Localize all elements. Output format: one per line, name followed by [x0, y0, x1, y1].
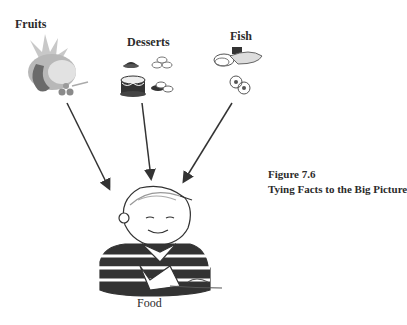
arrow-fish-to-food — [184, 103, 232, 181]
boy-eating-icon — [98, 186, 222, 296]
desserts-icon — [120, 57, 173, 97]
target-label-food: Food — [137, 296, 162, 311]
fruits-icon — [28, 34, 88, 96]
fish-icon — [214, 47, 262, 94]
source-label-fish: Fish — [230, 29, 252, 44]
figure-title: Tying Facts to the Big Picture — [268, 182, 407, 197]
arrow-fruits-to-food — [67, 103, 109, 188]
arrow-desserts-to-food — [142, 103, 151, 178]
source-label-desserts: Desserts — [127, 35, 170, 50]
source-label-fruits: Fruits — [15, 17, 46, 32]
figure-number: Figure 7.6 — [268, 167, 315, 182]
